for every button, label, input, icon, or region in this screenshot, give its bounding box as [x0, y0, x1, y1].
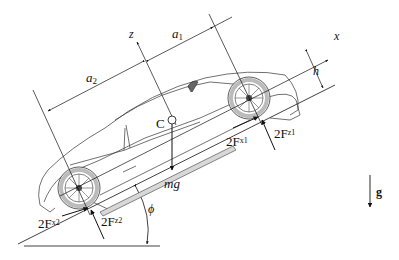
fz1-label: 2Fz1	[274, 126, 295, 141]
fx2-arrow	[62, 208, 88, 216]
fx1-label: 2Fx1	[226, 134, 248, 149]
z-axis-label: z	[128, 27, 134, 41]
a1-label: a1	[172, 26, 183, 42]
z-axis	[137, 42, 176, 125]
center-label: C	[156, 116, 165, 131]
rear-wheel	[58, 167, 100, 209]
gravity-label: g	[376, 185, 382, 199]
vehicle-incline-diagram: z x a1 a2 h C mg g ϕ 2Fx1 2Fz1 2Fx2 2Fz2	[0, 0, 399, 260]
a2-dimension	[48, 62, 142, 111]
fz2-label: 2Fz2	[101, 214, 122, 229]
incline-line	[18, 85, 335, 244]
fx2-label: 2Fx2	[38, 216, 60, 231]
weight-label: mg	[164, 176, 180, 191]
a2-label: a2	[86, 70, 97, 86]
h-label: h	[313, 64, 319, 78]
x-axis-label: x	[333, 29, 340, 43]
angle-label: ϕ	[148, 202, 154, 216]
center-of-mass	[168, 116, 176, 124]
